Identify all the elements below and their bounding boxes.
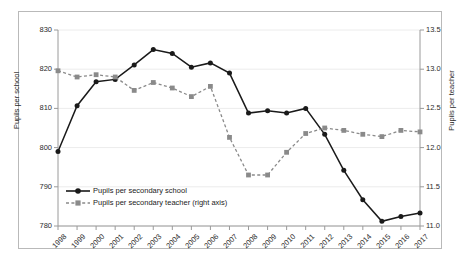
data-point: [341, 128, 346, 133]
data-point: [360, 132, 365, 137]
data-point: [227, 135, 232, 140]
data-point: [75, 75, 80, 80]
data-point: [398, 214, 403, 219]
data-point: [284, 150, 289, 155]
legend-marker-teacher: [75, 200, 80, 205]
data-point: [246, 173, 251, 178]
data-point: [322, 126, 327, 131]
data-point: [399, 128, 404, 133]
data-point: [418, 211, 423, 216]
data-point: [303, 131, 308, 136]
data-point: [265, 173, 270, 178]
data-point: [227, 71, 232, 76]
data-point: [208, 60, 213, 65]
data-point: [265, 108, 270, 113]
data-point: [360, 197, 365, 202]
data-point: [303, 106, 308, 111]
data-point: [380, 134, 385, 139]
data-point: [151, 47, 156, 52]
legend-label: Pupils per secondary school: [93, 186, 187, 195]
data-point: [132, 88, 137, 93]
legend-label: Pupils per secondary teacher (right axis…: [93, 198, 227, 207]
series-line: [58, 71, 420, 175]
data-point: [132, 62, 137, 67]
data-point: [94, 79, 99, 84]
data-point: [170, 51, 175, 56]
data-point: [75, 103, 80, 108]
data-point: [56, 68, 61, 73]
data-point: [56, 149, 61, 154]
data-point: [113, 75, 118, 80]
data-point: [94, 72, 99, 77]
data-point: [379, 219, 384, 224]
data-point: [284, 111, 289, 116]
data-point: [170, 86, 175, 91]
legend-marker-school: [75, 188, 81, 194]
data-point: [189, 94, 194, 99]
chart-canvas: [0, 0, 460, 267]
data-point: [189, 65, 194, 70]
data-point: [208, 84, 213, 89]
data-point: [341, 168, 346, 173]
data-point: [151, 80, 156, 85]
chart-plot-area: Pupils per school Pupils per teacher 780…: [0, 0, 460, 267]
data-point: [322, 132, 327, 137]
data-point: [246, 111, 251, 116]
data-point: [418, 130, 423, 135]
